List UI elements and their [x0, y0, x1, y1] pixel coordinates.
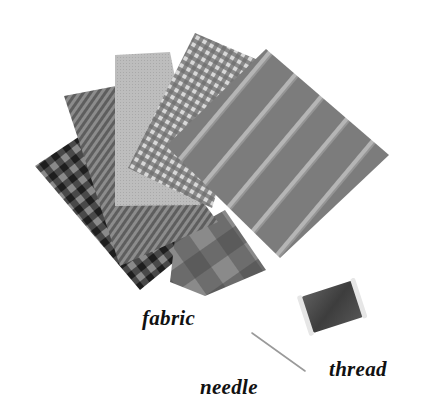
- fabric-label: fabric: [142, 306, 195, 331]
- needle-label: needle: [200, 375, 258, 400]
- thread-label: thread: [329, 357, 387, 382]
- thread-spool-icon: [297, 277, 368, 336]
- sewing-illustration: [0, 0, 424, 410]
- needle-icon: [252, 333, 305, 371]
